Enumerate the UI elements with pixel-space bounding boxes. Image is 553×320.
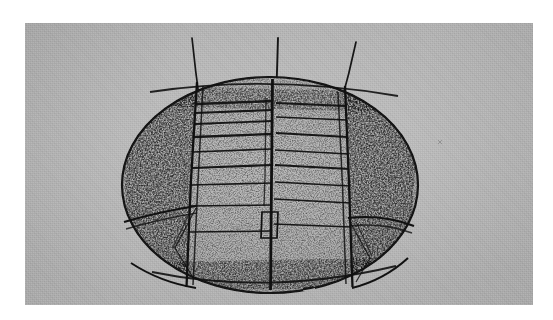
figure-page	[0, 0, 553, 320]
specimen-figure-plate	[25, 23, 533, 305]
